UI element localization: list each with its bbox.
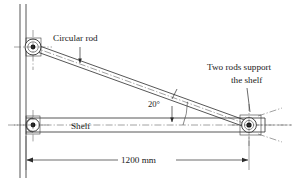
wall <box>20 4 26 178</box>
circular-rod-label: Circular rod <box>53 33 98 43</box>
shelf-label: Shelf <box>71 121 91 131</box>
circular-rod <box>30 44 249 129</box>
angle-arc <box>172 89 188 125</box>
lower-pin-joint <box>14 110 50 142</box>
angle-label: 20° <box>148 99 161 109</box>
two-rods-support-label-line1: Two rods support <box>207 62 272 72</box>
dimension-label: 1200 mm <box>121 155 156 165</box>
right-pin-joint <box>232 104 292 146</box>
two-rods-leader <box>247 88 250 112</box>
engineering-diagram-figure: Circular rod Two rods support the shelf … <box>0 0 299 184</box>
diagram-canvas: Circular rod Two rods support the shelf … <box>0 0 299 184</box>
two-rods-support-label-line2: the shelf <box>231 75 263 85</box>
